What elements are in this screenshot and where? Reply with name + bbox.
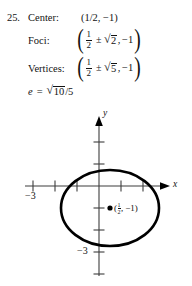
point-label-comma: ,	[121, 204, 123, 213]
foci-comma: ,	[118, 35, 121, 46]
center-row: Center: (1/2, −1)	[28, 12, 118, 23]
eccentricity-row: e = √ 10 /5	[28, 85, 73, 97]
vertices-radical: √ 5	[104, 62, 117, 74]
problem-number: 25.	[7, 12, 20, 23]
foci-close-paren: )	[134, 30, 140, 49]
radical-sign-icon: √	[47, 85, 54, 96]
eccentricity-radical: √ 10	[47, 85, 65, 97]
foci-open-paren: (	[77, 30, 83, 49]
vertices-plus-minus-sign: ±	[96, 63, 102, 73]
vertices-label: Vertices:	[28, 63, 76, 74]
foci-y-value: −1	[122, 35, 133, 46]
foci-label: Foci:	[28, 35, 76, 46]
x-axis-arrowhead	[160, 182, 170, 190]
foci-fraction: 1 2	[86, 30, 93, 50]
y-axis-arrowhead	[95, 116, 103, 126]
eccentricity-divider: /5	[65, 86, 73, 97]
vertices-radicand: 5	[111, 63, 117, 75]
vertices-expression: ( 1 2 ± √ 5 , −1 )	[76, 58, 141, 78]
x-axis-tick-label-neg3: −3	[25, 190, 36, 201]
foci-fraction-denominator: 2	[86, 41, 93, 50]
radical-sign-icon: √	[104, 34, 111, 45]
radical-sign-icon: √	[104, 62, 111, 73]
eccentricity-symbol: e	[28, 86, 33, 97]
point-label-y-value: −1	[125, 204, 135, 213]
vertices-close-paren: )	[134, 58, 140, 77]
foci-radicand: 2	[111, 35, 117, 47]
center-label: Center:	[28, 12, 59, 23]
answer-text-block: 25. Center: (1/2, −1) Foci: ( 1 2 ± √ 2	[0, 0, 192, 104]
coordinate-plane-graph: x y −3 −3 ( 1 2 , −1 )	[0, 104, 192, 286]
vertices-open-paren: (	[77, 58, 83, 77]
vertices-row: Vertices: ( 1 2 ± √ 5 , −1 )	[28, 58, 141, 78]
center-point-marker	[107, 205, 112, 210]
center-point-label: ( 1 2 , −1 )	[114, 202, 138, 215]
vertices-fraction: 1 2	[86, 58, 93, 78]
point-label-close-paren: )	[135, 204, 138, 213]
foci-plus-minus-sign: ±	[96, 35, 102, 45]
y-axis-label: y	[103, 108, 107, 118]
vertices-fraction-denominator: 2	[86, 69, 93, 78]
eccentricity-expression: e = √ 10 /5	[28, 85, 73, 97]
equals-sign: =	[37, 86, 43, 97]
center-value: (1/2, −1)	[81, 12, 118, 23]
foci-radical: √ 2	[104, 34, 117, 46]
figure-container: 25. Center: (1/2, −1) Foci: ( 1 2 ± √ 2	[0, 0, 192, 286]
vertices-fraction-numerator: 1	[86, 58, 93, 67]
eccentricity-radicand: 10	[53, 86, 65, 98]
vertices-comma: ,	[118, 63, 121, 74]
foci-row: Foci: ( 1 2 ± √ 2 , −1 )	[28, 30, 141, 50]
vertices-y-value: −1	[122, 63, 133, 74]
x-axis-label: x	[173, 179, 177, 189]
foci-expression: ( 1 2 ± √ 2 , −1 )	[76, 30, 141, 50]
y-axis-tick-label-neg3: −3	[77, 245, 88, 256]
foci-fraction-numerator: 1	[86, 30, 93, 39]
